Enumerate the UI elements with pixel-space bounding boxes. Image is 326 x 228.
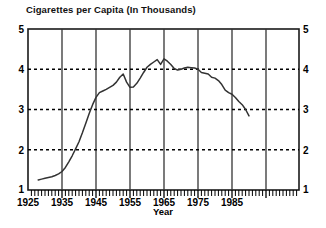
y-axis-tick-1-right: 1 xyxy=(303,184,317,195)
y-axis-tick-4-right: 4 xyxy=(303,64,317,75)
line-chart-plot xyxy=(0,0,326,228)
y-axis-tick-2-left: 2 xyxy=(10,145,24,156)
y-axis-tick-5-right: 5 xyxy=(303,24,317,35)
y-axis-tick-3-left: 3 xyxy=(10,104,24,115)
y-axis-tick-5-left: 5 xyxy=(10,24,24,35)
y-axis-tick-2-right: 2 xyxy=(303,145,317,156)
y-axis-tick-4-left: 4 xyxy=(10,64,24,75)
chart-figure: Cigarettes per Capita (In Thousands) xyxy=(0,0,326,228)
x-axis-title: Year xyxy=(0,206,326,217)
y-axis-tick-1-left: 1 xyxy=(10,184,24,195)
y-axis-tick-3-right: 3 xyxy=(303,104,317,115)
